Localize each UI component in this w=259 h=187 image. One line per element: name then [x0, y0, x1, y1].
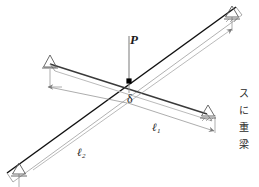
dim-l1-line: [128, 103, 214, 131]
vertical-caption-char-4: 梁: [236, 136, 252, 153]
length-label-l1-base: ℓ: [152, 121, 157, 133]
intersection-node-marker: [126, 78, 131, 83]
vertical-japanese-caption: ス に 重 梁: [236, 85, 252, 153]
length-label-l2-subscript: 2: [82, 152, 86, 160]
beam-l2-edge-dark: [7, 7, 236, 173]
support-hatch-top-right-1: [226, 19, 229, 22]
vertical-caption-char-3: 重: [236, 119, 252, 136]
support-triangle-right-middle: [202, 105, 215, 116]
support-left-upper: [42, 55, 58, 68]
vertical-caption-char-2: に: [236, 102, 252, 119]
beam-l2-long: [7, 7, 242, 182]
dimension-lines: [19, 17, 232, 187]
beam-l1-edge-light: [55, 71, 212, 121]
length-label-l1-subscript: 1: [157, 127, 161, 135]
figure-canvas: P δ ℓ1 ℓ2 ス に 重 梁: [0, 0, 259, 187]
load-label-P: P: [130, 33, 138, 46]
length-label-l2: ℓ2: [77, 147, 86, 160]
vertical-caption-char-1: ス: [236, 85, 252, 102]
deflection-label-delta: δ: [127, 93, 133, 105]
length-label-l1: ℓ1: [152, 122, 161, 135]
length-label-l2-base: ℓ: [77, 146, 82, 158]
